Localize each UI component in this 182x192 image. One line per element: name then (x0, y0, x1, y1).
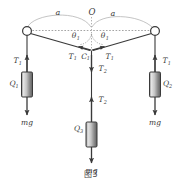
label-tension-center-lower-sub: 2 (103, 99, 107, 105)
label-tension-junction-right-sub: 1 (111, 55, 114, 61)
label-span-right: a (111, 9, 116, 18)
block-center (86, 122, 97, 147)
label-force-right: mg (149, 118, 161, 127)
left-hanging-assembly (22, 35, 33, 115)
label-tension-center-lower: T 2 (98, 95, 106, 105)
label-weight-right-sub: 2 (168, 83, 172, 89)
label-tension-right: T 1 (162, 56, 170, 66)
label-origin: O (89, 7, 96, 17)
figure-caption: 图3 (0, 168, 182, 179)
block-right (150, 72, 161, 97)
label-weight-left-sub: 1 (15, 83, 18, 89)
label-tension-junction-left-sub: 1 (74, 55, 77, 61)
span-dimension-right (92, 17, 153, 28)
label-weight-left: Q 1 (9, 79, 18, 89)
label-weight-right: Q 2 (163, 79, 172, 89)
pulley-right (151, 27, 160, 36)
label-weight-center: Q 3 (74, 124, 83, 134)
label-tension-right-sub: 1 (168, 60, 171, 66)
diagram-canvas: a O a θ 1 θ 1 T 1 C 1 T 1 T 1 Q 1 mg T 1 (0, 0, 182, 192)
label-junction-sub: 1 (87, 55, 90, 61)
label-tension-left-sub: 1 (19, 60, 22, 66)
pulley-left (23, 27, 32, 36)
label-span-left: a (56, 8, 61, 17)
label-angle-right-sub: 1 (106, 35, 109, 41)
label-tension-junction-right: T 1 (105, 52, 113, 62)
label-junction-point: C 1 (81, 52, 90, 62)
label-tension-center-upper-sub: 2 (103, 68, 107, 74)
label-force-left: mg (21, 118, 33, 127)
label-angle-left: θ 1 (72, 31, 80, 41)
center-hanging-assembly (86, 51, 97, 164)
label-tension-center-upper: T 2 (98, 64, 106, 74)
label-weight-center-sub: 3 (80, 128, 83, 134)
label-angle-left-sub: 1 (77, 35, 80, 41)
label-tension-left: T 1 (13, 56, 21, 66)
angle-arc-left (81, 34, 92, 45)
label-tension-junction-left: T 1 (68, 52, 76, 62)
right-hanging-assembly (150, 35, 161, 115)
tension-arrow-junction-right (92, 47, 105, 51)
block-left (22, 72, 33, 97)
label-angle-right: θ 1 (101, 31, 109, 41)
physics-force-diagram: a O a θ 1 θ 1 T 1 C 1 T 1 T 1 Q 1 mg T 1 (0, 0, 182, 192)
